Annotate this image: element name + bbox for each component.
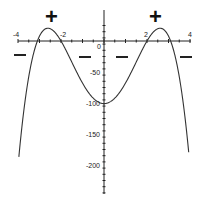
plus-sign-right: + bbox=[149, 6, 162, 28]
x-tick-label-zero: 0 bbox=[97, 43, 101, 50]
x-tick-label-neg4: -4 bbox=[13, 31, 19, 38]
x-tick-label-neg2: -2 bbox=[60, 31, 66, 38]
plus-sign-left: + bbox=[45, 6, 58, 28]
x-tick-label-pos4: 4 bbox=[188, 31, 192, 38]
minus-sign-center-left bbox=[79, 56, 91, 58]
y-tick-label-neg200: -200 bbox=[86, 162, 100, 169]
x-tick-label-pos2: 2 bbox=[144, 31, 148, 38]
y-tick-label-neg50: -50 bbox=[90, 69, 100, 76]
minus-sign-far-right bbox=[180, 56, 192, 58]
minus-sign-center-right bbox=[116, 56, 128, 58]
y-tick-label-neg150: -150 bbox=[86, 131, 100, 138]
y-tick-label-neg100: -100 bbox=[86, 100, 100, 107]
function-plot bbox=[0, 0, 206, 204]
minus-sign-far-left bbox=[14, 54, 26, 56]
